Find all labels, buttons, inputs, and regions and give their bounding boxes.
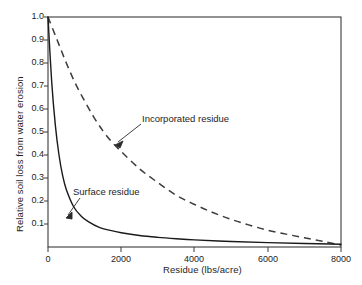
x-axis-title: Residue (lbs/acre) <box>163 264 242 275</box>
y-tick-label-0.1: 0.1 <box>22 218 44 228</box>
x-tick-label-4000: 4000 <box>172 254 216 264</box>
x-tick-label-8000: 8000 <box>319 254 362 264</box>
x-tick-label-2000: 2000 <box>99 254 143 264</box>
y-tick-label-0.3: 0.3 <box>22 172 44 182</box>
y-tick-label-0.9: 0.9 <box>22 34 44 44</box>
plot-frame <box>48 17 341 247</box>
x-axis-ticks <box>48 247 341 252</box>
chart-figure: 1.0 0.9 0.8 0.7 0.6 0.5 0.4 0.3 0.2 0.1 … <box>0 0 362 285</box>
x-tick-label-0: 0 <box>26 254 70 264</box>
series-label-surface-residue: Surface residue <box>73 186 140 197</box>
y-tick-label-0.6: 0.6 <box>22 103 44 113</box>
plot-canvas <box>0 0 362 285</box>
y-tick-label-1.0: 1.0 <box>22 11 44 21</box>
y-tick-label-0.2: 0.2 <box>22 195 44 205</box>
y-axis-title: Relative soil loss from water erosion <box>14 76 25 232</box>
y-tick-label-0.4: 0.4 <box>22 149 44 159</box>
y-tick-label-0.5: 0.5 <box>22 126 44 136</box>
y-tick-label-0.7: 0.7 <box>22 80 44 90</box>
y-axis-ticks <box>44 17 48 224</box>
series-label-incorporated-residue: Incorporated residue <box>142 113 229 124</box>
y-tick-label-0.8: 0.8 <box>22 57 44 67</box>
x-tick-label-6000: 6000 <box>246 254 290 264</box>
